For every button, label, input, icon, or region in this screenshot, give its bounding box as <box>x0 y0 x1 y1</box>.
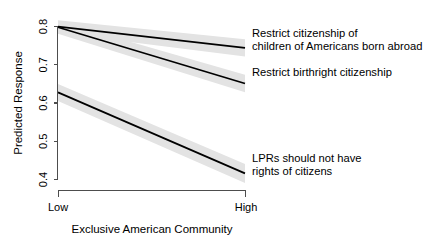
y-tick-label-0.4: 0.4 <box>37 172 49 187</box>
x-tick-label-low: Low <box>48 201 68 213</box>
x-tick-label-high: High <box>235 201 258 213</box>
y-tick-label-0.5: 0.5 <box>37 134 49 149</box>
x-axis-title: Exclusive American Community <box>71 223 232 235</box>
series-annotation-restrict-birthright-citizenship: Restrict birthright citizenship <box>252 66 392 79</box>
y-axis-title: Predicted Response <box>12 51 24 155</box>
trend-line-lprs-no-rights <box>58 92 245 173</box>
x-axis: Low High Exclusive American Community <box>48 191 257 236</box>
y-tick-label-0.7: 0.7 <box>37 57 49 72</box>
y-axis: 0.8 0.7 0.6 0.5 0.4 Predicted Response <box>12 19 58 187</box>
y-tick-label-0.8: 0.8 <box>37 19 49 34</box>
figure-container: 0.8 0.7 0.6 0.5 0.4 Predicted Response L… <box>0 0 431 246</box>
series-annotation-lprs-no-rights: LPRs should not have rights of citizens <box>252 152 361 178</box>
series-annotation-restrict-citizenship-children-abroad: Restrict citizenship of children of Amer… <box>252 27 422 53</box>
x-axis-line <box>59 191 246 197</box>
y-tick-label-0.6: 0.6 <box>37 95 49 110</box>
